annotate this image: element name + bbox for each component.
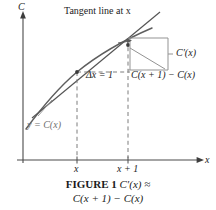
curve-label-leader	[38, 100, 52, 116]
derivative-bracket-group	[128, 38, 173, 70]
figure-caption: FIGURE 1 C′(x) ≈ C(x + 1) − C(x)	[0, 178, 216, 206]
figure-container: C x Tangent line at x C′(x) Δx = 1 C(x +…	[0, 0, 216, 210]
y-axis-label: C	[18, 2, 25, 12]
x-tick-label-x-plus-1: x + 1	[117, 164, 138, 174]
point-at-x	[75, 70, 79, 74]
y-axis-arrowhead	[20, 11, 26, 18]
caption-formula-first-line: C′(x) ≈	[120, 178, 151, 190]
derivative-label: C′(x)	[176, 48, 196, 58]
dashed-guides	[77, 40, 130, 158]
curve-label: y = C(x)	[27, 120, 61, 130]
delta-x-label: Δx = 1	[86, 70, 113, 80]
caption-figure-number: FIGURE 1	[66, 178, 117, 190]
point-at-x-plus-1	[126, 43, 130, 47]
bracket-inner-diagonal	[130, 48, 165, 69]
caption-line-1: FIGURE 1 C′(x) ≈	[0, 178, 216, 192]
caption-formula-second-line: C(x + 1) − C(x)	[0, 192, 216, 206]
x-tick-label-x: x	[74, 164, 78, 174]
difference-label: C(x + 1) − C(x)	[131, 70, 195, 80]
tangent-line	[32, 12, 160, 118]
tangent-line-label: Tangent line at x	[64, 6, 131, 16]
axes-group	[17, 11, 204, 164]
x-axis-label: x	[205, 155, 209, 165]
x-axis-arrowhead	[197, 157, 204, 163]
